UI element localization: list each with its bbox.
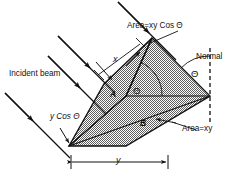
area-projected-label: Area=xy Cos Θ	[127, 22, 183, 30]
theta-normal-label: Θ	[191, 68, 198, 79]
normal-label: Normal	[196, 53, 222, 61]
y-cos-theta-label: y Cos Θ	[50, 113, 80, 121]
x-dimension-tick-end	[136, 38, 146, 48]
y-cos-theta-leader	[60, 128, 69, 143]
area-true-label: Area=xy	[182, 125, 212, 133]
region-a-label: A	[110, 89, 116, 99]
optics-projected-area-figure: Incident beam Area=xy Cos Θ Area=xy Norm…	[0, 0, 244, 175]
incident-beam-4-arrow	[5, 93, 33, 121]
incident-beam-2-arrow	[58, 36, 90, 68]
x-dimension-label: x	[113, 55, 118, 64]
area-cos-leader	[148, 31, 178, 44]
figure-canvas	[0, 0, 244, 175]
incident-beam-label: Incident beam	[9, 70, 60, 78]
region-b-label: B	[140, 118, 146, 128]
y-dimension-label: y	[116, 156, 121, 165]
theta-surface-label: Θ	[133, 85, 140, 96]
